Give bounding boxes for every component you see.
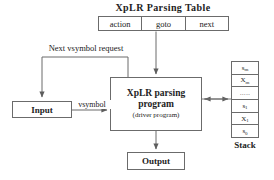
stack-cell-0: sm	[232, 62, 258, 75]
stack-cell-3: s1	[232, 100, 258, 113]
stack-label: Stack	[224, 140, 266, 150]
parser-program-box: XpLR parsing program (driver program)	[110, 77, 202, 131]
parsing-table-title: XpLR Parsing Table	[88, 2, 238, 13]
stack-cell-5-sub: 0	[245, 131, 248, 136]
xplr-parser-diagram: XpLR Parsing Table action goto next Inpu…	[0, 0, 274, 180]
edge-label-vsymbol: vsymbol	[72, 100, 112, 109]
table-cell-goto: goto	[142, 17, 185, 30]
table-cell-action: action	[99, 17, 142, 30]
parser-subtitle: (driver program)	[133, 112, 180, 120]
stack-cell-ellipsis: …..	[232, 87, 258, 100]
stack-box: sm Xm ….. s1 X1 s0	[231, 61, 259, 138]
stack-cell-0-sub: m	[244, 67, 248, 72]
parser-title-line1: XpLR parsing	[127, 88, 185, 99]
stack-cell-4: X1	[232, 113, 258, 126]
stack-cell-1: Xm	[232, 75, 258, 88]
stack-cell-1-sub: m	[246, 80, 250, 85]
stack-cell-4-sub: 1	[246, 118, 249, 123]
output-box: Output	[127, 152, 185, 170]
parsing-table: action goto next	[98, 16, 229, 31]
stack-cell-5: s0	[232, 125, 258, 137]
parser-title-line2: program	[138, 99, 174, 110]
input-box: Input	[12, 101, 72, 118]
table-cell-next: next	[186, 17, 228, 30]
edge-label-next-vsymbol-request: Next vsymbol request	[30, 43, 142, 53]
stack-cell-3-sub: 1	[245, 105, 248, 110]
